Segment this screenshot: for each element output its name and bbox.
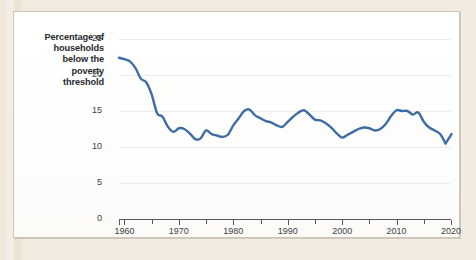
x-tick-label: 2020 [431,227,471,236]
x-tick-label: 1970 [159,227,199,236]
series-path [119,58,446,144]
x-tick-label: 1990 [268,227,308,236]
y-tick-label: 15 [76,106,102,115]
chart-card: Percentage of households below the pover… [13,11,460,238]
y-tick-label: 10 [76,142,102,151]
y-tick-label: 20 [76,70,102,79]
y-tick-label: 25 [76,34,102,43]
series-line-poverty-rate [106,28,451,224]
x-tick-label: 1980 [213,227,253,236]
x-tick-label: 2000 [322,227,362,236]
y-axis-title-line-3: below the [28,54,104,65]
chart-screenshot: Percentage of households below the pover… [0,0,476,260]
y-axis-title-line-2: households [28,43,104,54]
x-tick-label: 2010 [377,227,417,236]
x-tick-label: 1960 [104,227,144,236]
series-path-tail [446,134,452,143]
x-axis-tick [451,220,452,225]
plot-area: 05101520251960197019801990200020102020 [106,28,451,224]
y-tick-label: 0 [76,214,102,223]
y-tick-label: 5 [76,178,102,187]
